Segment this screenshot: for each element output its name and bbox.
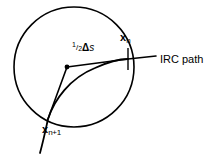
arclength-variable: s <box>89 42 94 53</box>
fraction-numerator: 1 <box>72 41 76 48</box>
point-label-xn: xn <box>120 32 130 45</box>
constraint-circle <box>14 7 134 127</box>
step-size-label: 1/2Δs <box>72 41 94 53</box>
figure-container: 1/2Δs xn xn+1 IRC path <box>0 0 209 158</box>
one-half-fraction: 1/2 <box>72 43 82 52</box>
irc-path-caption: IRC path <box>160 54 203 65</box>
irc-tangent-extension <box>128 56 156 59</box>
xn-subscript: n <box>126 36 130 45</box>
irc-path-curve <box>40 59 128 153</box>
xn1-subscript: n+1 <box>48 128 61 137</box>
pivot-point-dot <box>65 65 70 70</box>
irc-diagram-svg <box>0 0 209 158</box>
point-label-xn-plus-1: xn+1 <box>42 124 61 137</box>
